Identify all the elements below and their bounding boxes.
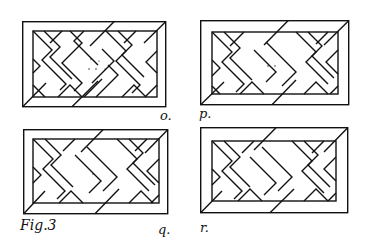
interlace-knot-q-icon: [23, 129, 169, 215]
panel-label-p: p.: [199, 107, 211, 120]
panel-label-r: r.: [200, 221, 209, 234]
interlace-knot-r-icon: [200, 127, 349, 214]
figure-caption: Fig.3: [20, 218, 57, 232]
knot-panel-p: [200, 20, 350, 106]
interlace-knot-o-icon: [22, 21, 167, 108]
panel-label-o: o.: [160, 109, 172, 122]
figure-3-canvas: o.: [0, 0, 367, 252]
panel-label-q: q.: [158, 223, 170, 236]
knot-panel-o: [22, 21, 167, 108]
interlace-knot-p-icon: [200, 20, 350, 106]
knot-panel-q: [23, 129, 169, 215]
knot-panel-r: [200, 127, 349, 214]
